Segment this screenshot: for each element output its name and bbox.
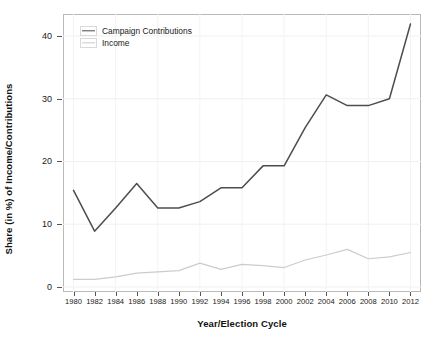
x-tick-label: 2006 [339,297,356,306]
x-tick-mark [74,292,75,296]
x-tick-mark [368,292,369,296]
x-tick-label: 1988 [149,297,166,306]
line-chart: Share (in %) of Income/Contributions 010… [0,0,433,338]
x-tick-label: 1994 [212,297,229,306]
x-tick-mark [200,292,201,296]
x-tick-label: 2004 [318,297,335,306]
x-tick-mark [410,292,411,296]
x-tick-mark [158,292,159,296]
x-tick-label: 1990 [170,297,187,306]
x-tick-label: 1998 [255,297,272,306]
x-tick-label: 2002 [297,297,314,306]
x-tick-mark [95,292,96,296]
gridlines [63,14,421,292]
y-tick-label: 10 [26,219,52,229]
legend-label: Campaign Contributions [102,26,192,36]
x-tick-label: 1980 [65,297,82,306]
legend-swatch-icon [80,26,97,36]
legend-swatch-line [82,42,95,43]
x-tick-label: 1986 [128,297,145,306]
x-tick-mark [137,292,138,296]
x-tick-label: 1982 [86,297,103,306]
x-tick-label: 1984 [107,297,124,306]
y-axis-title: Share (in %) of Income/Contributions [0,0,16,338]
y-tick-label: 0 [26,282,52,292]
x-tick-mark [326,292,327,296]
x-tick-mark [305,292,306,296]
x-tick-mark [242,292,243,296]
x-axis-title: Year/Election Cycle [63,318,421,329]
y-tick-mark [57,36,62,37]
legend-item: Campaign Contributions [80,25,192,36]
x-tick-label: 1992 [191,297,208,306]
y-tick-mark [57,287,62,288]
y-axis-tick-labels: 010203040 [22,0,52,338]
y-tick-mark [57,224,62,225]
y-tick-label: 40 [26,31,52,41]
x-tick-mark [263,292,264,296]
x-tick-mark [116,292,117,296]
x-tick-label: 2008 [360,297,377,306]
x-tick-label: 2000 [276,297,293,306]
x-tick-mark [284,292,285,296]
y-tick-label: 20 [26,156,52,166]
x-tick-mark [221,292,222,296]
plot-series-canvas [63,14,421,292]
x-tick-label: 2010 [381,297,398,306]
y-tick-mark [57,99,62,100]
legend-item: Income [80,37,192,48]
chart-legend: Campaign ContributionsIncome [78,24,194,49]
x-tick-label: 1996 [234,297,251,306]
legend-swatch-line [82,30,95,31]
x-tick-mark [179,292,180,296]
x-tick-mark [347,292,348,296]
legend-swatch-icon [80,38,97,48]
x-tick-label: 2012 [402,297,419,306]
y-tick-label: 30 [26,94,52,104]
legend-label: Income [102,38,129,48]
x-tick-mark [389,292,390,296]
y-tick-mark [57,161,62,162]
